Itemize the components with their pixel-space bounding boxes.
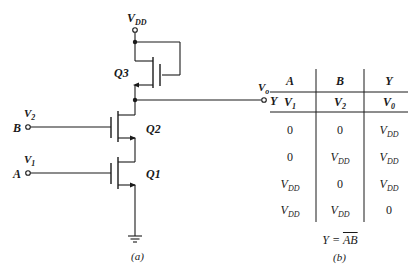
q3-label: Q3: [114, 67, 129, 79]
row3-y: VDD: [380, 178, 399, 193]
q3-source-arrow-icon: [133, 83, 139, 88]
vo-label: Vo: [258, 82, 269, 96]
transistor-q2-icon: [111, 111, 118, 142]
nand-circuit-schematic: [0, 0, 416, 272]
row1-y: VDD: [380, 124, 399, 139]
row4-y: 0: [386, 204, 392, 219]
input-b-label: B: [13, 122, 21, 134]
header-b: B: [336, 75, 344, 87]
voltage-v0: V0: [383, 96, 395, 111]
vdd-label: VDD: [127, 12, 147, 27]
q2-label: Q2: [146, 123, 161, 135]
junction-dot-icon: [133, 40, 137, 44]
vdd-terminal-icon: [133, 28, 138, 33]
caption-b: (b): [333, 252, 346, 263]
row4-b: VDD: [331, 204, 350, 219]
v1-label: V1: [24, 154, 35, 168]
nand-formula: Y = AB: [322, 234, 357, 246]
input-a-label: A: [13, 168, 21, 180]
truth-table-grid: [270, 69, 408, 222]
row2-b: VDD: [331, 151, 350, 166]
header-y: Y: [385, 75, 392, 87]
input-a-terminal-icon: [26, 171, 31, 176]
v2-label: V2: [24, 108, 35, 122]
transistor-q1-icon: [111, 157, 118, 189]
output-y-label: Y: [270, 95, 277, 107]
ground-icon: [128, 236, 142, 242]
formula-rhs-overbar: AB: [343, 233, 358, 247]
header-a: A: [286, 75, 294, 87]
row3-b: 0: [337, 178, 343, 193]
row2-a: 0: [287, 151, 293, 166]
voltage-v2: V2: [334, 96, 346, 111]
q1-label: Q1: [146, 168, 161, 180]
junction-dot-icon: [133, 98, 137, 102]
transistor-q3-icon: [153, 57, 160, 88]
row4-a: VDD: [281, 204, 300, 219]
caption-a: (a): [131, 251, 144, 262]
output-terminal-icon: [262, 98, 267, 103]
voltage-v1: V1: [284, 96, 296, 111]
row1-b: 0: [337, 124, 343, 139]
row2-y: VDD: [380, 151, 399, 166]
row1-a: 0: [287, 124, 293, 139]
input-b-terminal-icon: [26, 125, 31, 130]
row3-a: VDD: [281, 178, 300, 193]
